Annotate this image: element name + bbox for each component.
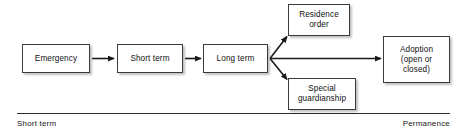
node-short-term: Short term: [117, 44, 183, 73]
node-long-term-label: Long term: [217, 54, 255, 64]
node-special-guardianship: Special guardianship: [288, 78, 356, 110]
node-residence-order-line-2: order: [299, 20, 339, 30]
node-emergency: Emergency: [22, 44, 90, 73]
edge-long-term-to-residence: [270, 37, 287, 59]
node-long-term: Long term: [203, 44, 268, 73]
axis-label-short-term: Short term: [17, 119, 56, 128]
edge-long-term-to-special: [270, 59, 287, 80]
node-special-guardianship-line-1: Special: [298, 84, 346, 94]
axis-label-permanence: Permanence: [403, 119, 450, 128]
node-adoption-line-3: closed): [400, 65, 433, 75]
node-adoption: Adoption (open or closed): [383, 36, 450, 83]
node-short-term-label: Short term: [130, 54, 169, 64]
node-adoption-line-1: Adoption: [400, 45, 433, 55]
continuum-axis-line: [17, 113, 450, 114]
permanence-pathway-diagram: Emergency Short term Long term Residence…: [0, 0, 469, 133]
node-special-guardianship-line-2: guardianship: [298, 94, 346, 104]
node-emergency-label: Emergency: [35, 54, 77, 64]
node-residence-order-line-1: Residence: [299, 10, 339, 20]
node-residence-order: Residence order: [288, 4, 350, 36]
node-adoption-line-2: (open or: [400, 55, 433, 65]
